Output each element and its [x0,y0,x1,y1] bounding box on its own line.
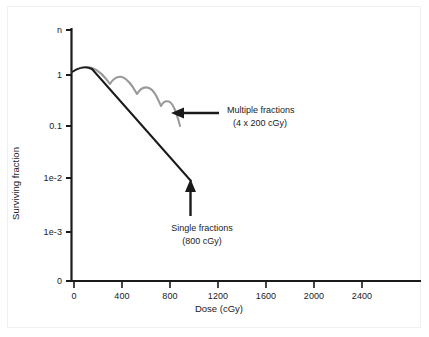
single-fractions-arrow [185,179,196,216]
y-tick-label-1e-3: 1e-3 [14,227,62,237]
x-tick-label-0: 0 [71,291,76,301]
annotation-multiple-line2: (4 x 200 cGy) [227,117,295,130]
x-tick-label-400: 400 [114,291,129,301]
x-tick-label-1600: 1600 [256,291,276,301]
y-tick-label-n: n [14,25,62,35]
multiple-fractions-curve [72,67,180,126]
y-tick-label-1e-2: 1e-2 [14,173,62,183]
y-axis-title: Surviving fraction [10,124,21,244]
annotation-single-line1: Single fractions [171,223,233,233]
y-tick-label-1: 1 [14,70,62,80]
x-axis-title: Dose (cGy) [154,303,284,314]
y-tick-label-0: 0 [14,276,62,286]
plot-canvas [0,0,429,337]
chart-page: n 1 0.1 1e-2 1e-3 0 0 400 800 1200 1600 … [0,0,429,337]
annotation-single-line2: (800 cGy) [147,235,257,248]
x-tick-label-2000: 2000 [304,291,324,301]
annotation-single-fractions: Single fractions (800 cGy) [147,222,257,247]
annotation-multiple-fractions: Multiple fractions (4 x 200 cGy) [227,104,295,129]
annotation-multiple-line1: Multiple fractions [227,105,295,115]
y-tick-label-0point1: 0.1 [14,121,62,131]
x-tick-label-2400: 2400 [352,291,372,301]
x-tick-label-1200: 1200 [208,291,228,301]
x-tick-label-800: 800 [162,291,177,301]
